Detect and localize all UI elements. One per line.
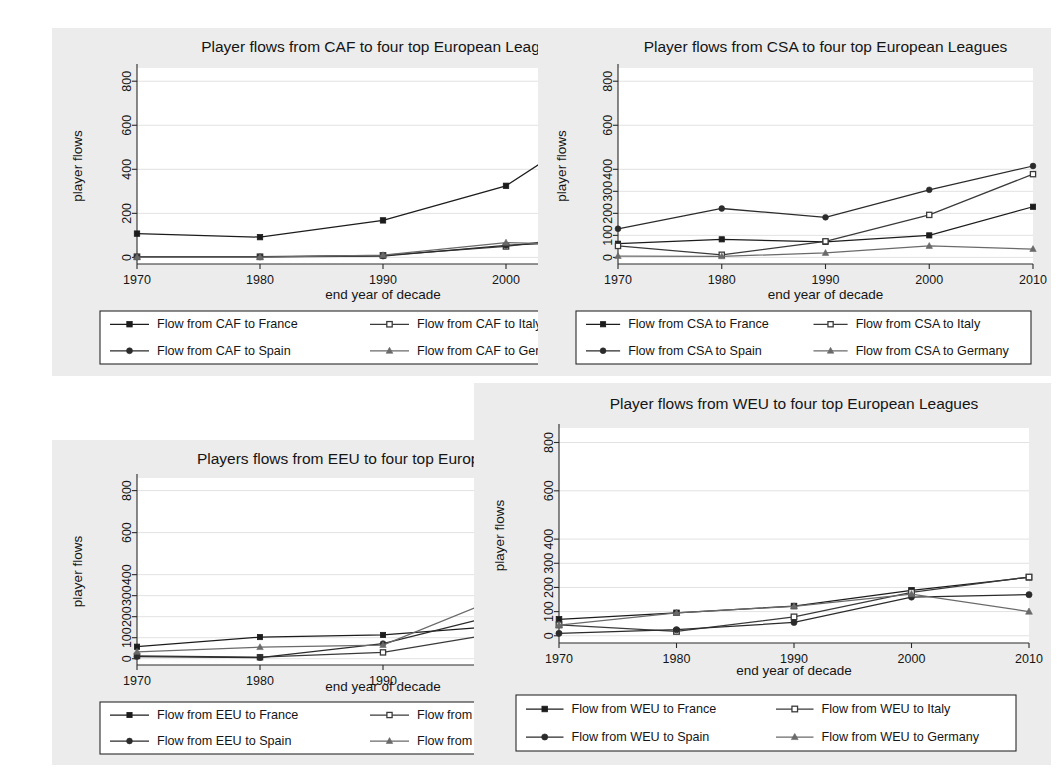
data-point-marker <box>127 738 133 744</box>
data-point-marker <box>600 348 606 354</box>
legend-label: Flow from CSA to France <box>628 317 769 331</box>
chart-legend: Flow from WEU to FranceFlow from WEU to … <box>516 695 1016 751</box>
x-tick-label: 1970 <box>123 273 151 287</box>
data-point-marker <box>542 706 548 712</box>
data-point-marker <box>823 214 829 220</box>
y-tick-label: 100 <box>120 627 134 648</box>
x-tick-label: 1970 <box>123 674 151 688</box>
data-point-marker <box>257 634 262 639</box>
x-axis-label: end year of decade <box>325 679 441 694</box>
y-tick-label: 0 <box>601 254 615 261</box>
x-axis-label: end year of decade <box>736 663 852 678</box>
y-axis-label: player flows <box>70 536 85 608</box>
data-point-marker <box>615 243 620 248</box>
y-tick-label: 600 <box>601 115 615 136</box>
y-tick-label: 300 <box>542 553 556 574</box>
x-tick-label: 2000 <box>898 652 926 666</box>
data-point-marker <box>792 706 798 712</box>
data-point-marker <box>615 226 621 232</box>
chart-panel-weu: Player flows from WEU to four top Europe… <box>474 383 1051 765</box>
y-tick-label: 100 <box>542 601 556 622</box>
y-tick-label: 100 <box>601 225 615 246</box>
y-tick-label: 200 <box>601 203 615 224</box>
data-point-marker <box>127 348 133 354</box>
x-axis-label: end year of decade <box>325 287 441 302</box>
y-tick-label: 200 <box>120 606 134 627</box>
y-tick-label: 800 <box>542 432 556 453</box>
chart-panel-csa: Player flows from CSA to four top Europe… <box>538 28 1051 376</box>
data-point-marker <box>791 614 797 620</box>
y-tick-label: 400 <box>542 529 556 550</box>
data-point-marker <box>257 234 262 239</box>
x-tick-label: 1970 <box>604 273 632 287</box>
data-point-marker <box>719 206 725 212</box>
data-point-marker <box>387 712 392 717</box>
y-tick-label: 200 <box>120 203 134 224</box>
legend-label: Flow from WEU to Italy <box>822 702 951 716</box>
legend-label: Flow from WEU to France <box>572 702 717 716</box>
data-point-marker <box>673 627 679 633</box>
y-tick-label: 600 <box>120 115 134 136</box>
y-tick-label: 300 <box>120 585 134 606</box>
plot-area-background <box>559 428 1029 643</box>
chart-legend: Flow from CSA to FranceFlow from CSA to … <box>576 311 1031 364</box>
data-point-marker <box>719 237 724 242</box>
legend-label: Flow from CSA to Spain <box>628 344 762 358</box>
y-tick-label: 0 <box>542 632 556 639</box>
chart-svg-csa: Player flows from CSA to four top Europe… <box>538 28 1051 376</box>
chart-title: Player flows from CSA to four top Europe… <box>644 38 1008 55</box>
legend-label: Flow from CAF to France <box>157 317 298 331</box>
y-tick-label: 300 <box>601 181 615 202</box>
x-tick-label: 2000 <box>492 273 520 287</box>
legend-label: Flow from CSA to Italy <box>856 317 981 331</box>
data-point-marker <box>503 183 508 188</box>
y-tick-label: 600 <box>542 480 556 501</box>
data-point-marker <box>387 322 392 327</box>
data-point-marker <box>927 233 932 238</box>
data-point-marker <box>134 654 140 660</box>
chart-title: Player flows from WEU to four top Europe… <box>610 395 979 412</box>
data-point-marker <box>600 322 605 327</box>
legend-label: Flow from WEU to Spain <box>572 730 710 744</box>
y-axis-label: player flows <box>70 130 85 202</box>
data-point-marker <box>257 655 263 661</box>
y-tick-label: 800 <box>120 480 134 501</box>
data-point-marker <box>134 231 139 236</box>
y-tick-label: 800 <box>601 71 615 92</box>
y-tick-label: 600 <box>120 522 134 543</box>
x-tick-label: 1980 <box>708 273 736 287</box>
legend-label: Flow from EEU to France <box>157 708 298 722</box>
data-point-marker <box>927 212 932 217</box>
x-tick-label: 2000 <box>915 273 943 287</box>
y-tick-label: 400 <box>120 564 134 585</box>
y-axis-label: player flows <box>554 130 569 202</box>
y-tick-label: 200 <box>542 577 556 598</box>
data-point-marker <box>380 218 385 223</box>
data-point-marker <box>127 712 132 717</box>
data-point-marker <box>542 734 548 740</box>
y-tick-label: 0 <box>120 254 134 261</box>
chart-title: Player flows from CAF to four top Europe… <box>201 38 565 55</box>
legend-label: Flow from CAF to Spain <box>157 344 291 358</box>
data-point-marker <box>556 630 562 636</box>
y-tick-label: 800 <box>120 71 134 92</box>
x-axis-label: end year of decade <box>768 287 884 302</box>
x-tick-label: 1980 <box>246 273 274 287</box>
y-axis-label: player flows <box>492 500 507 572</box>
x-tick-label: 1990 <box>369 273 397 287</box>
plot-area-background <box>618 68 1033 264</box>
legend-label: Flow from CSA to Germany <box>856 344 1010 358</box>
legend-label: Flow from WEU to Germany <box>822 730 980 744</box>
x-tick-label: 2010 <box>1019 273 1047 287</box>
x-tick-label: 1980 <box>663 652 691 666</box>
data-point-marker <box>1030 172 1035 177</box>
y-tick-label: 400 <box>601 159 615 180</box>
data-point-marker <box>926 187 932 193</box>
legend-label: Flow from CAF to Italy <box>417 317 542 331</box>
data-point-marker <box>828 322 833 327</box>
x-tick-label: 1980 <box>246 674 274 688</box>
chart-svg-weu: Player flows from WEU to four top Europe… <box>474 383 1051 765</box>
x-tick-label: 1990 <box>812 273 840 287</box>
data-point-marker <box>380 632 385 637</box>
x-tick-label: 2010 <box>1015 652 1043 666</box>
